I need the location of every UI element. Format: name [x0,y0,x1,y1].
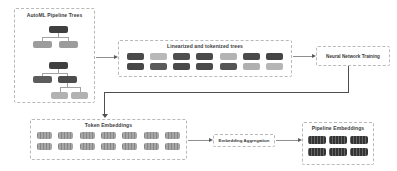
pipeline-embedding-pill [308,148,326,156]
connector-nn-to-tokens [348,66,349,92]
token-embedding-pill [144,143,159,150]
linearized-tokenized-trees-box: Linearized and tokenized trees [118,40,292,77]
embedding-aggregation-label: Embedding Aggregation [219,138,270,143]
neural-network-training-label: Neural Network Training [326,54,380,59]
token-embeddings-title: Token Embeddings [31,122,186,128]
tree2-connector-line [42,73,68,74]
neural-network-training-box: Neural Network Training [316,46,390,66]
tree2-connector-line [60,87,81,88]
token-pill [220,63,237,70]
embedding-row [31,143,186,150]
arrow-tokens-to-aggregation [188,140,209,141]
pipeline-embedding-diagram: AutoML Pipeline Trees Linearized and tok… [0,0,397,171]
tree2-left-grandchild-node [51,92,68,99]
connector-nn-to-tokens [104,92,105,114]
pipeline-embedding-pill [350,148,368,156]
token-embedding-pill [80,143,95,150]
token-pill [220,53,237,60]
token-row [119,53,291,60]
pipeline-embedding-pill [329,148,347,156]
token-embedding-pill [122,132,137,139]
token-row [119,63,291,70]
token-embedding-pill [37,132,52,139]
token-embedding-pill [101,132,116,139]
token-embedding-pill [144,132,159,139]
automl-pipeline-trees-box: AutoML Pipeline Trees [14,8,95,103]
token-embedding-pill [58,143,73,150]
embedding-aggregation-box: Embedding Aggregation [213,134,275,147]
token-pill [196,53,213,60]
tree1-root-node [49,26,68,33]
token-pill [173,53,190,60]
token-pill [150,53,167,60]
linearized-box-title: Linearized and tokenized trees [119,43,291,49]
token-pill [266,63,283,70]
token-pill [150,63,167,70]
arrow-aggregation-to-pipeline [276,140,298,141]
tree2-right-child-node [58,76,77,83]
token-pill [173,63,190,70]
pipeline-embeddings-box: Pipeline Embeddings [302,122,374,165]
pipeline-embeddings-title: Pipeline Embeddings [303,125,373,131]
automl-box-title: AutoML Pipeline Trees [15,12,94,18]
tree1-connector-line [42,37,69,38]
token-embeddings-box: Token Embeddings [30,119,187,160]
tree2-root-node [49,62,68,69]
tree2-left-child-node [33,76,52,83]
pipeline-embedding-pill [329,136,347,144]
token-embedding-pill [165,132,180,139]
tree2-right-grandchild-node [71,92,88,99]
token-pill [127,53,144,60]
token-embedding-pill [58,132,73,139]
embedding-row [31,132,186,139]
token-embedding-pill [122,143,137,150]
token-embedding-pill [37,143,52,150]
tree1-right-child-node [59,41,78,48]
token-embedding-pill [80,132,95,139]
token-pill [243,63,260,70]
token-pill [196,63,213,70]
pipeline-embedding-pill [350,136,368,144]
pipeline-embedding-pill [308,136,326,144]
connector-nn-to-tokens [104,92,349,93]
tree1-left-child-node [33,41,52,48]
token-embedding-pill [101,143,116,150]
arrowhead-nn-to-tokens [102,114,108,118]
token-embedding-pill [165,143,180,150]
arrow-trees-to-linearized [96,57,114,58]
embedding-row [303,136,373,144]
token-pill [243,53,260,60]
arrow-linearized-to-nn [293,56,312,57]
token-pill [266,53,283,60]
token-pill [127,63,144,70]
embedding-row [303,148,373,156]
